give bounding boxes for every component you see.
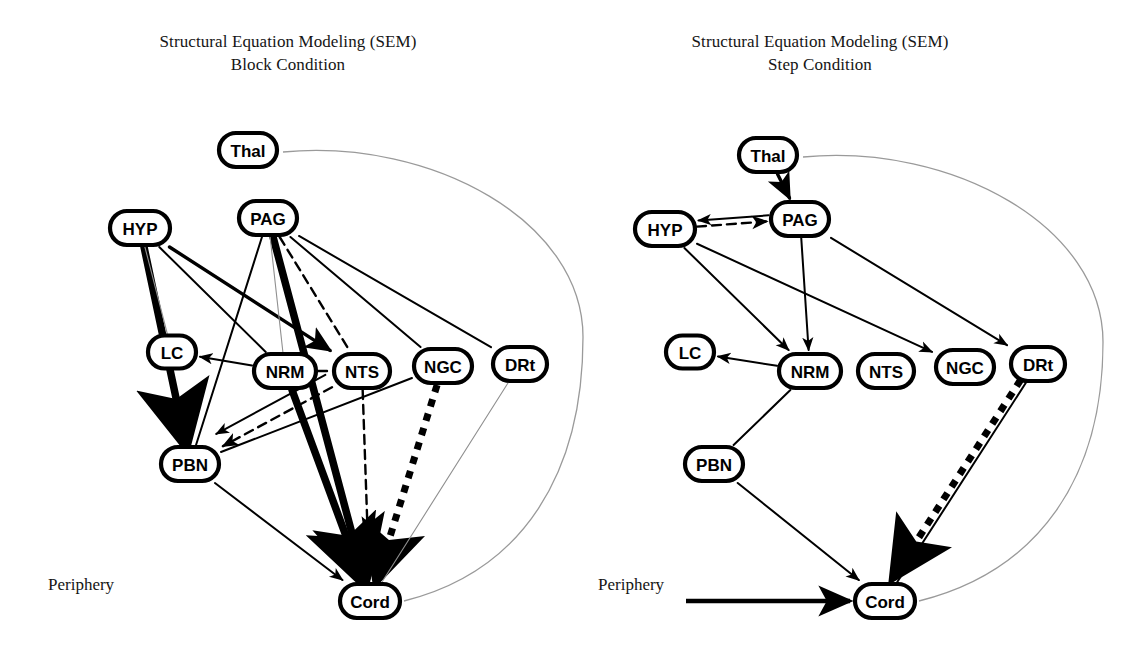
node-label: NGC xyxy=(946,359,984,378)
node-label: NRM xyxy=(266,363,305,382)
node-label: PBN xyxy=(172,456,208,475)
edge-pag-to-drt xyxy=(831,238,1007,345)
edge-nrm-to-lc xyxy=(718,356,777,365)
edge-ngc-to-cord xyxy=(377,385,438,580)
edge-hyp-to-ngc xyxy=(697,244,932,352)
node-step-pbn[interactable]: PBN xyxy=(685,447,743,481)
edge-pbn-to-cord xyxy=(215,483,342,580)
node-label: NGC xyxy=(424,358,462,377)
node-step-hyp[interactable]: HYP xyxy=(635,212,695,246)
periphery-label-step: Periphery xyxy=(598,575,664,595)
node-label: Cord xyxy=(350,593,390,612)
node-label: NRM xyxy=(791,363,830,382)
node-block-hyp[interactable]: HYP xyxy=(110,211,170,245)
panel-title-block: Structural Equation Modeling (SEM) Block… xyxy=(88,30,488,76)
node-block-nts[interactable]: NTS xyxy=(334,354,390,388)
node-block-drt[interactable]: DRt xyxy=(493,347,547,381)
panel-title-step-line1: Structural Equation Modeling (SEM) xyxy=(692,32,949,51)
panel-title-block-line1: Structural Equation Modeling (SEM) xyxy=(160,32,417,51)
node-label: PAG xyxy=(250,210,286,229)
node-label: HYP xyxy=(123,220,158,239)
node-block-lc[interactable]: LC xyxy=(148,336,196,369)
node-label: HYP xyxy=(648,221,683,240)
node-label: PAG xyxy=(782,211,818,230)
node-block-thal[interactable]: Thal xyxy=(219,133,277,167)
node-label: LC xyxy=(679,344,702,363)
edge-drt-to-cord xyxy=(382,383,508,582)
node-step-cord[interactable]: Cord xyxy=(855,584,915,618)
node-step-thal[interactable]: Thal xyxy=(739,138,797,172)
node-label: DRt xyxy=(505,356,536,375)
node-block-cord[interactable]: Cord xyxy=(340,584,400,618)
edge-hyp-to-pag xyxy=(697,221,767,226)
edge-drt-to-cord xyxy=(894,380,1021,577)
node-label: DRt xyxy=(1023,356,1054,375)
edge-pbn-to-cord xyxy=(738,483,859,580)
edge-nrm-to-pbn xyxy=(734,390,791,445)
node-label: NTS xyxy=(345,363,379,382)
edge-nts-to-pbn xyxy=(223,387,332,446)
edge-pag-to-hyp xyxy=(699,215,769,220)
edge-drt-to-cord xyxy=(897,383,1025,582)
sem-figure: Structural Equation Modeling (SEM) Block… xyxy=(0,0,1135,648)
node-step-nts[interactable]: NTS xyxy=(858,354,914,388)
node-label: NTS xyxy=(869,363,903,382)
node-block-pag[interactable]: PAG xyxy=(239,201,297,235)
node-label: Cord xyxy=(865,593,905,612)
edge-nrm-to-lc xyxy=(200,357,252,366)
panel-title-step: Structural Equation Modeling (SEM) Step … xyxy=(620,30,1020,76)
diagram-canvas: ThalHYPPAGLCNRMNTSNGCDRtPBNCordThalHYPPA… xyxy=(0,0,1135,648)
node-step-drt[interactable]: DRt xyxy=(1011,347,1065,381)
node-step-lc[interactable]: LC xyxy=(666,336,714,369)
panel-title-step-line2: Step Condition xyxy=(620,53,1020,76)
node-label: Thal xyxy=(751,147,786,166)
node-block-ngc[interactable]: NGC xyxy=(414,349,472,383)
edge-thal-to-pag xyxy=(778,174,790,198)
node-block-nrm[interactable]: NRM xyxy=(254,354,316,388)
edge-pag-to-drt xyxy=(299,236,491,347)
edge-nts-to-cord xyxy=(363,390,370,580)
node-step-pag[interactable]: PAG xyxy=(771,202,829,236)
node-label: PBN xyxy=(696,456,732,475)
node-step-nrm[interactable]: NRM xyxy=(779,354,841,388)
edge-pag-to-ngc xyxy=(290,237,420,347)
node-step-ngc[interactable]: NGC xyxy=(936,350,994,384)
node-block-pbn[interactable]: PBN xyxy=(161,447,219,481)
node-label: LC xyxy=(161,344,184,363)
node-label: Thal xyxy=(231,142,266,161)
periphery-label-block: Periphery xyxy=(48,575,114,595)
edge-nrm-to-cord xyxy=(292,390,362,580)
panel-title-block-line2: Block Condition xyxy=(88,53,488,76)
